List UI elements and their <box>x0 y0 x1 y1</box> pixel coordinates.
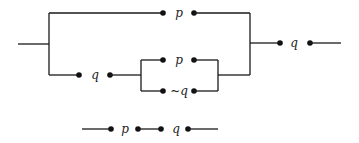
switch-label-top-p: p <box>175 6 183 20</box>
top-branch: p <box>49 6 250 20</box>
terminal-dot <box>158 126 164 132</box>
circuit-diagram: p q p ~q <box>0 0 359 143</box>
terminal-dot <box>160 57 166 63</box>
simplified-label-q: q <box>172 122 180 136</box>
terminal-dot <box>160 10 166 16</box>
switch-label-output-q: q <box>290 36 298 50</box>
terminal-dot <box>160 88 166 94</box>
terminal-dot <box>277 40 283 46</box>
switch-label-not-q: ~q <box>170 84 188 98</box>
terminal-dot <box>108 126 114 132</box>
switch-label-q: q <box>91 68 99 82</box>
simplified-label-p: p <box>121 122 129 136</box>
terminal-dot <box>76 72 82 78</box>
switch-label-inner-p: p <box>175 53 183 67</box>
simplified-circuit: p q <box>82 122 218 136</box>
bottom-branch: q p ~q <box>49 53 250 98</box>
output-branch: q <box>250 36 341 50</box>
main-circuit: p q p ~q <box>18 6 341 98</box>
